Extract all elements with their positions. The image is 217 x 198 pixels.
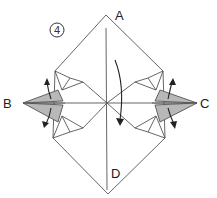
step-number: 4 [54, 24, 60, 36]
flap-c-lower-shaded [155, 103, 197, 122]
arrow-b-down-head [42, 121, 49, 128]
flap-b-upper-shaded [23, 90, 63, 103]
arrow-b-up-head [44, 78, 50, 85]
flap-b-lower-shaded [23, 103, 63, 122]
arrow-c-down-head [170, 121, 177, 129]
label-c: C [200, 96, 209, 111]
label-d: D [111, 166, 120, 181]
flap-c-upper-shaded [155, 90, 197, 103]
label-a: A [115, 8, 124, 23]
label-b: B [3, 96, 12, 111]
origami-diagram: 4 A B C D [0, 0, 217, 198]
arrow-c-up-head [169, 78, 176, 85]
